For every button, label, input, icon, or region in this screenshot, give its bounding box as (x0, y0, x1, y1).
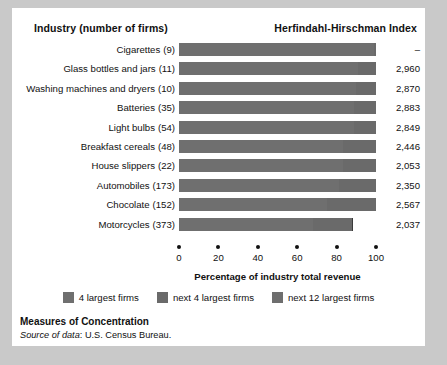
chart-legend: 4 largest firmsnext 4 largest firmsnext … (12, 292, 425, 303)
chart-row: Light bulbs(54)2,849 (12, 119, 425, 138)
legend-item: next 4 largest firms (157, 292, 254, 303)
legend-label: 4 largest firms (79, 292, 139, 303)
legend-swatch-icon (63, 292, 74, 303)
row-label: Chocolate(152) (12, 199, 175, 210)
stacked-bar (179, 43, 376, 56)
firm-count: (173) (150, 180, 175, 191)
firm-count: (11) (156, 63, 175, 74)
firm-count: (22) (155, 160, 175, 171)
axis-tick-label: 100 (368, 252, 384, 263)
chart-rows: Cigarettes(9)–Glass bottles and jars(11)… (12, 41, 425, 235)
row-label: Automobiles(173) (12, 180, 175, 191)
bar-segment-s2 (354, 101, 376, 114)
firm-count: (35) (155, 102, 175, 113)
column-header-hhi: Herfindahl-Hirschman Index (274, 22, 417, 34)
bar-segment-s1 (179, 198, 327, 211)
bar-segment-s1 (179, 121, 354, 134)
hhi-value: 2,567 (384, 199, 420, 210)
firm-count: (152) (150, 199, 175, 210)
column-header-industry: Industry (number of firms) (34, 22, 168, 34)
firm-count: (373) (150, 219, 175, 230)
caption-title: Measures of Concentration (20, 316, 171, 327)
stacked-bar (179, 140, 376, 153)
row-label: Cigarettes(9) (12, 44, 175, 55)
bar-segment-s1 (179, 62, 358, 75)
row-label: Glass bottles and jars(11) (12, 63, 175, 74)
bar-segment-s2 (358, 62, 376, 75)
legend-swatch-icon (157, 292, 168, 303)
hhi-value: 2,870 (384, 83, 420, 94)
stacked-bar (179, 121, 376, 134)
industry-name: Washing machines and dryers (26, 83, 155, 94)
bar-segment-s2 (354, 121, 376, 134)
axis-tick-label: 20 (213, 252, 224, 263)
bar-segment-s1 (179, 179, 339, 192)
legend-swatch-icon (272, 292, 283, 303)
axis-tick-label: 40 (252, 252, 263, 263)
stacked-bar (179, 159, 376, 172)
chart-row: Glass bottles and jars(11)2,960 (12, 60, 425, 79)
bar-segment-s1 (179, 43, 374, 56)
axis-tick-label: 60 (292, 252, 303, 263)
axis-tick-dot (295, 245, 299, 249)
caption-source: Source of data: U.S. Census Bureau. (20, 330, 171, 340)
firm-count: (9) (160, 44, 175, 55)
chart-row: Washing machines and dryers(10)2,870 (12, 80, 425, 99)
legend-label: next 4 largest firms (173, 292, 254, 303)
hhi-value: 2,883 (384, 102, 420, 113)
row-label: Light bulbs(54) (12, 122, 175, 133)
hhi-value: 2,350 (384, 180, 420, 191)
row-label: Motorcycles(373) (12, 219, 175, 230)
industry-name: Breakfast cereals (81, 141, 155, 152)
bar-segment-s2 (327, 198, 376, 211)
bar-segment-s1 (179, 140, 343, 153)
bar-segment-s2 (374, 43, 376, 56)
stacked-bar (179, 218, 376, 231)
industry-name: Chocolate (106, 199, 149, 210)
row-label: Breakfast cereals(48) (12, 141, 175, 152)
stacked-bar (179, 179, 376, 192)
hhi-value: 2,960 (384, 63, 420, 74)
axis-tick-dot (335, 245, 339, 249)
x-axis: 020406080100 (12, 239, 425, 273)
bar-segment-s2 (339, 179, 376, 192)
chart-row: Motorcycles(373)2,037 (12, 216, 425, 235)
industry-name: Light bulbs (109, 122, 155, 133)
table-header: Industry (number of firms) Herfindahl-Hi… (12, 22, 425, 38)
bar-segment-s2 (343, 159, 376, 172)
industry-name: Batteries (117, 102, 155, 113)
hhi-value: 2,053 (384, 160, 420, 171)
axis-tick-label: 0 (176, 252, 181, 263)
bar-segment-s2 (313, 218, 352, 231)
industry-name: Automobiles (97, 180, 150, 191)
firm-count: (10) (155, 83, 175, 94)
firm-count: (54) (155, 122, 175, 133)
hhi-value: 2,849 (384, 122, 420, 133)
axis-tick-dot (374, 245, 378, 249)
legend-label: next 12 largest firms (288, 292, 374, 303)
row-label: House slippers(22) (12, 160, 175, 171)
industry-name: Motorcycles (98, 219, 149, 230)
row-label: Batteries(35) (12, 102, 175, 113)
industry-name: Glass bottles and jars (63, 63, 155, 74)
x-axis-title: Percentage of industry total revenue (179, 271, 376, 282)
bar-segment-s2 (343, 140, 376, 153)
bar-segment-s1 (179, 101, 354, 114)
stacked-bar (179, 198, 376, 211)
chart-row: Chocolate(152)2,567 (12, 196, 425, 215)
chart-row: Automobiles(173)2,350 (12, 177, 425, 196)
hhi-value: – (384, 44, 420, 55)
industry-name: Cigarettes (117, 44, 161, 55)
bar-segment-s1 (179, 159, 343, 172)
segment-divider (352, 218, 353, 231)
firm-count: (48) (155, 141, 175, 152)
legend-item: next 12 largest firms (272, 292, 374, 303)
bar-segment-s1 (179, 82, 356, 95)
bar-segment-s1 (179, 218, 313, 231)
figure-caption: Measures of Concentration Source of data… (20, 316, 171, 340)
stacked-bar (179, 101, 376, 114)
legend-item: 4 largest firms (63, 292, 139, 303)
axis-tick-label: 80 (331, 252, 342, 263)
axis-tick-dot (256, 245, 260, 249)
chart-row: Cigarettes(9)– (12, 41, 425, 60)
